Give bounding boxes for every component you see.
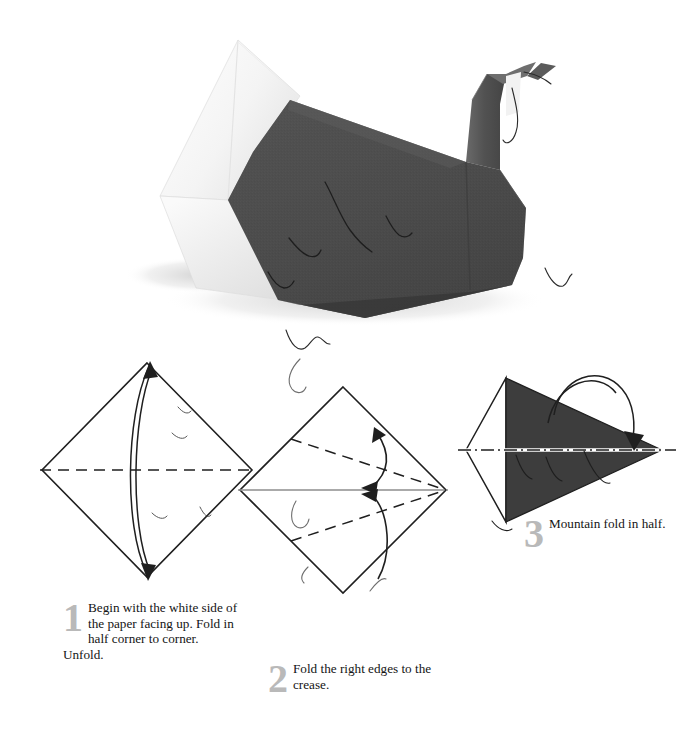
diagram-step-1 — [40, 361, 254, 581]
step-3-caption: 3 Mountain fold in half. — [524, 516, 676, 550]
step-3-text: Mountain fold in half. — [524, 516, 676, 532]
step-3-number: 3 — [524, 517, 544, 550]
step-1-caption: 1 Begin with the white side of the paper… — [63, 600, 241, 662]
diagram-step-2 — [238, 359, 448, 593]
step-1-text: Begin with the white side of the paper f… — [63, 600, 241, 662]
step-2-caption: 2 Fold the right edges to the crease. — [268, 661, 438, 695]
swan-neck — [466, 74, 506, 170]
step-1-number: 1 — [63, 601, 83, 634]
swan-photo-svg — [0, 0, 684, 360]
step-2-text: Fold the right edges to the crease. — [268, 661, 438, 692]
origami-instruction-page: 1 Begin with the white side of the paper… — [0, 0, 684, 737]
diagram-step-3 — [458, 376, 676, 531]
step-2-number: 2 — [268, 662, 288, 695]
finished-model-photo — [0, 0, 684, 360]
